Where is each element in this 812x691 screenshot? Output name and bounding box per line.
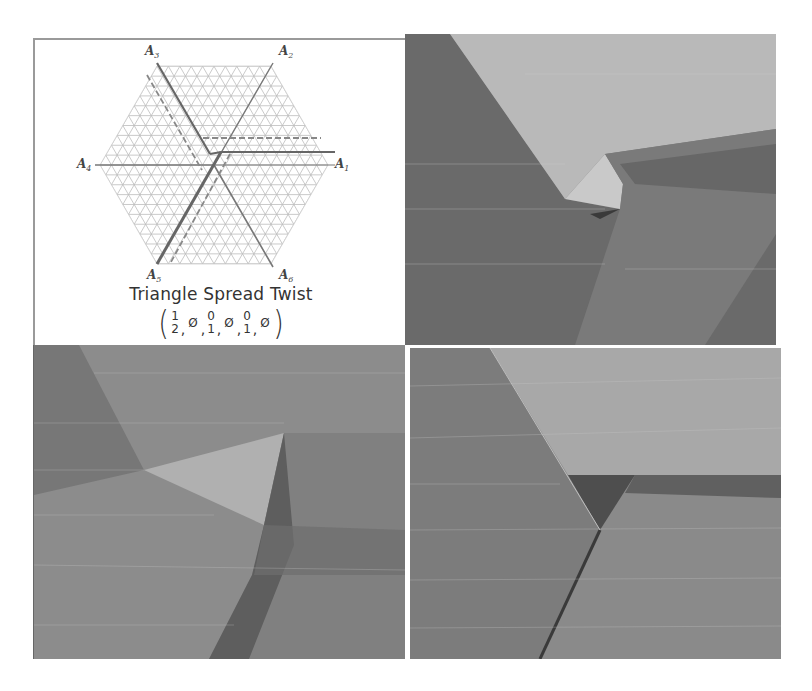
axis-label-a4: A4: [77, 157, 91, 173]
tuple-entry-1: 12: [171, 310, 179, 336]
diagram-title: Triangle Spread Twist: [35, 284, 405, 304]
axis-label-a2: A2: [279, 44, 293, 60]
tuple-entry-6: Ø: [260, 316, 269, 330]
photo-twist-oblique: [405, 34, 776, 345]
photo-pleat: [410, 348, 781, 659]
axis-label-a6: A6: [279, 268, 293, 284]
axis-label-a1: A1: [335, 157, 349, 173]
photo-twist-side: [34, 345, 405, 659]
open-paren: (: [158, 306, 169, 340]
twist-signature-tuple: ( 12 , Ø , 01 , Ø , 01 , Ø ): [35, 306, 405, 340]
axis-label-a3: A3: [145, 44, 159, 60]
crease-pattern-diagram: A1 A2 A3 A4 A5 A6 Triangle Spread Twist …: [33, 38, 405, 345]
close-paren: ): [273, 306, 284, 340]
photo-top-right: [405, 34, 776, 345]
photo-bottom-left: [33, 345, 405, 659]
tuple-entry-4: Ø: [224, 316, 233, 330]
tuple-entry-3: 01: [207, 310, 215, 336]
tuple-entry-2: Ø: [188, 316, 197, 330]
tuple-entry-5: 01: [243, 310, 251, 336]
axis-label-a5: A5: [147, 268, 161, 284]
photo-bottom-right: [410, 348, 781, 659]
